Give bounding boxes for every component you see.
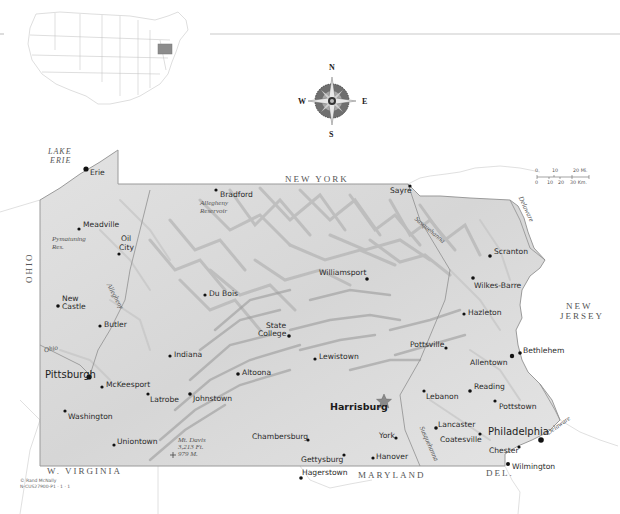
- label-lebanon: Lebanon: [426, 392, 459, 401]
- label-bradford: Bradford: [220, 190, 253, 199]
- copyright-line-1: © Rand McNally: [20, 478, 57, 484]
- label-du-bois: Du Bois: [209, 289, 238, 298]
- label-meadville: Meadville: [83, 220, 119, 229]
- compass-west-label: W: [298, 97, 306, 106]
- label-sayre: Sayre: [390, 186, 412, 195]
- scale-mi-0: 0: [535, 168, 538, 173]
- label-harrisburg: Harrisburg: [330, 402, 388, 411]
- label-hanover: Hanover: [376, 452, 408, 461]
- label-allentown: Allentown: [470, 358, 508, 367]
- label-altoona: Altoona: [242, 368, 271, 377]
- label-gettysburg: Gettysburg: [301, 455, 343, 464]
- label-pittsburgh: Pittsburgh: [45, 370, 96, 379]
- label-pottsville: Pottsville: [410, 340, 444, 349]
- inset-highlight-pennsylvania: [158, 44, 172, 54]
- label-latrobe: Latrobe: [150, 395, 179, 404]
- scale-km-30: 30 Km.: [570, 180, 587, 185]
- label-west-virginia: W. VIRGINIA: [47, 466, 122, 476]
- label-hazleton: Hazleton: [468, 308, 502, 317]
- label-scranton: Scranton: [494, 247, 528, 256]
- label-oil-city-1: Oil: [121, 234, 131, 243]
- scale-mi-10: 10: [552, 168, 558, 173]
- compass-north-label: N: [329, 63, 335, 72]
- label-lewistown: Lewistown: [319, 352, 359, 361]
- label-bethlehem: Bethlehem: [523, 346, 564, 355]
- label-uniontown: Uniontown: [117, 437, 158, 446]
- compass-south-label: S: [329, 130, 333, 139]
- label-reading: Reading: [474, 382, 505, 391]
- label-johnstown: Johnstown: [193, 394, 232, 403]
- label-new-castle-2: Castle: [62, 302, 86, 311]
- label-erie: Erie: [90, 168, 105, 177]
- compass-east-label: E: [362, 97, 367, 106]
- us-inset-map: [28, 12, 188, 104]
- label-williamsport: Williamsport: [319, 268, 366, 277]
- label-chester: Chester: [489, 446, 519, 455]
- label-ohio: OHIO: [24, 253, 34, 284]
- label-maryland: MARYLAND: [358, 470, 426, 480]
- compass-rose-icon: [308, 77, 356, 125]
- label-philadelphia: Philadelphia: [488, 427, 549, 436]
- label-hagerstown: Hagerstown: [302, 468, 348, 477]
- scale-km-10: 10: [547, 180, 553, 185]
- label-new-jersey-2: JERSEY: [560, 311, 604, 321]
- label-mt-davis-3: 979 M.: [178, 451, 198, 458]
- scale-mi-20: 20 Mi.: [573, 168, 588, 173]
- label-new-jersey-1: NEW: [566, 301, 593, 311]
- label-delaware: DEL.: [486, 468, 514, 478]
- scale-km-0: 0: [535, 180, 538, 185]
- label-butler: Butler: [104, 320, 127, 329]
- label-washington: Washington: [68, 412, 113, 421]
- scale-bar: [537, 175, 589, 179]
- label-indiana: Indiana: [174, 350, 202, 359]
- label-lake-erie-2: ERIE: [50, 156, 71, 165]
- label-lake-erie-1: LAKE: [48, 147, 72, 156]
- label-lancaster: Lancaster: [438, 420, 475, 429]
- label-chambersburg: Chambersburg: [252, 432, 308, 441]
- label-mckeesport: McKeesport: [106, 380, 150, 389]
- label-new-york: NEW YORK: [285, 174, 349, 184]
- scale-km-20: 20: [558, 180, 564, 185]
- label-york: York: [379, 431, 395, 440]
- label-wilmington: Wilmington: [512, 462, 555, 471]
- label-pymatuning-2: Res.: [52, 243, 64, 252]
- label-coatesville: Coatesville: [440, 435, 482, 444]
- copyright-line-2: N-CUS27900-P1 · 1 · 1: [20, 484, 70, 490]
- label-wilkes-barre: Wilkes-Barre: [474, 281, 521, 290]
- label-pottstown: Pottstown: [499, 402, 537, 411]
- label-oil-city-2: City: [119, 243, 134, 252]
- label-allegheny-reservoir-2: Reservoir: [200, 207, 227, 216]
- label-state-college-2: College: [258, 329, 286, 338]
